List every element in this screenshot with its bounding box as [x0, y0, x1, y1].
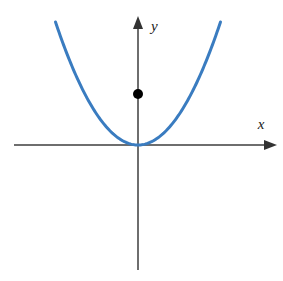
x-axis-arrowhead-icon [264, 140, 277, 150]
y-axis-label: y [149, 18, 158, 34]
y-axis-point-marker [133, 89, 143, 99]
figure-container: y x [0, 0, 283, 281]
parabola-figure: y x [0, 0, 283, 281]
x-axis-label: x [257, 116, 265, 132]
y-axis-arrowhead-icon [133, 16, 143, 29]
